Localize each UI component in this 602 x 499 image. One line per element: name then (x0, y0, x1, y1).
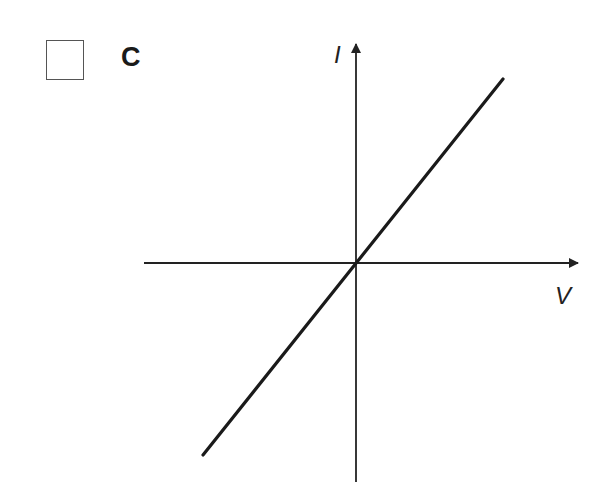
iv-line (203, 79, 503, 455)
iv-graph: I V (0, 0, 602, 499)
y-axis-label: I (334, 41, 341, 68)
x-axis-label: V (555, 282, 573, 309)
